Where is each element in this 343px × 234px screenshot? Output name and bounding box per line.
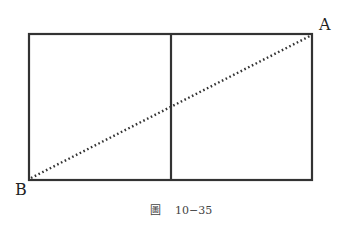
figure-caption: 圖10−35 bbox=[150, 205, 212, 216]
caption-number: 10−35 bbox=[175, 204, 212, 217]
rectangle-diagram bbox=[0, 0, 343, 234]
caption-prefix: 圖 bbox=[150, 204, 161, 217]
point-label-b: B bbox=[15, 182, 27, 198]
point-label-a: A bbox=[319, 17, 331, 33]
